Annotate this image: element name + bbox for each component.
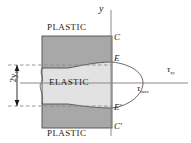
tau-xy-axis-label: τxy: [167, 65, 175, 74]
dimension-label-2yY: 2yY: [9, 60, 18, 94]
point-label-e-prime: E′: [114, 103, 121, 112]
tau-xy-subscript: xy: [170, 70, 174, 75]
region-label-plastic-top: PLASTIC: [47, 23, 86, 32]
point-label-e: E: [114, 54, 120, 63]
region-label-elastic: ELASTIC: [49, 78, 89, 87]
dimension-subscript: Y: [13, 71, 18, 74]
tau-max-label: τmax: [137, 84, 149, 93]
region-label-plastic-bottom: PLASTIC: [47, 129, 86, 138]
dimension-value: 2y: [8, 73, 18, 82]
point-label-c-prime: C′: [114, 122, 122, 131]
figure-canvas: [0, 0, 191, 143]
shear-stress-distribution-figure: y C E E′ C′ PLASTIC ELASTIC PLASTIC τxy …: [0, 0, 191, 143]
y-axis-label: y: [99, 4, 103, 14]
tau-max-subscript: max: [140, 89, 149, 94]
point-label-c: C: [114, 33, 120, 42]
